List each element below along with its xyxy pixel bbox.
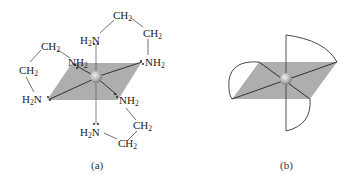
label-ch2: CH2 — [41, 40, 60, 54]
label-ch2: CH2 — [19, 64, 38, 78]
bridge-line — [100, 20, 114, 33]
panel-b: (b) — [229, 35, 337, 172]
caption-a: (a) — [91, 159, 104, 172]
caption-b: (b) — [280, 159, 293, 172]
panel-a: H2N NH2 NH2 H2N NH2 H2N CH2 CH2 CH2 CH2 … — [19, 9, 165, 172]
label-ch2: CH2 — [143, 27, 162, 41]
label-h2n-bottom: H2N — [80, 126, 100, 140]
label-ch2: CH2 — [118, 137, 137, 151]
metal-atom-sphere — [280, 73, 292, 85]
bridge-line — [131, 18, 143, 27]
label-h2n-top: H2N — [80, 34, 100, 48]
label-ch2: CH2 — [133, 119, 152, 133]
metal-atom-sphere — [90, 71, 102, 83]
chelate-arc-top — [286, 35, 337, 62]
bridge-line — [30, 50, 41, 62]
label-ch2: CH2 — [113, 9, 132, 23]
label-h2n-left: H2N — [22, 93, 42, 107]
bridge-line — [26, 77, 34, 92]
chelate-arc-bottom — [286, 99, 310, 131]
label-nh2-topleft: NH2 — [68, 56, 88, 70]
figure-canvas: H2N NH2 NH2 H2N NH2 H2N CH2 CH2 CH2 CH2 … — [0, 0, 353, 179]
bridge-line — [104, 133, 117, 139]
label-nh2-right: NH2 — [145, 56, 165, 70]
label-nh2-bottomright: NH2 — [119, 94, 139, 108]
